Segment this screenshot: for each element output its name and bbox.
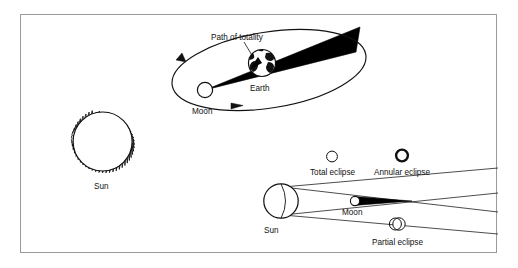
- partial-eclipse-icon: [389, 218, 405, 230]
- path-of-totality-leader-line: [244, 42, 253, 57]
- sun-disc-lower: [264, 184, 298, 218]
- path-of-totality-label: Path of totality: [211, 33, 264, 42]
- umbra-cone-lower: [355, 197, 412, 206]
- moon-sphere-orbit: [197, 82, 212, 97]
- total-eclipse-label: Total eclipse: [310, 168, 356, 177]
- partial-eclipse-label: Partial eclipse: [372, 238, 423, 247]
- total-eclipse-icon: [327, 151, 338, 162]
- eclipse-types-panel: Sun Moon Total eclipse Annular eclipse P…: [264, 150, 498, 247]
- orbit-arrow-bottom: [231, 103, 243, 109]
- sun-corona-panel: Sun: [71, 111, 134, 191]
- annular-eclipse-icon: [396, 150, 408, 162]
- orbit-panel: Path of totality Earth Moon: [166, 17, 371, 123]
- moon-disc-lower: [350, 196, 359, 205]
- annular-eclipse-label: Annular eclipse: [374, 168, 430, 177]
- sun-label-corona: Sun: [94, 182, 109, 191]
- moon-label-lower: Moon: [342, 208, 363, 217]
- sun-disc-corona: [73, 112, 132, 171]
- moon-label-orbit: Moon: [192, 107, 213, 116]
- figure-page: Path of totality Earth Moon Sun: [0, 0, 518, 268]
- orbit-arrow-left: [176, 53, 186, 62]
- earth-label: Earth: [250, 84, 270, 93]
- eclipse-diagram: Path of totality Earth Moon Sun: [0, 0, 518, 268]
- sun-label-lower: Sun: [264, 226, 279, 235]
